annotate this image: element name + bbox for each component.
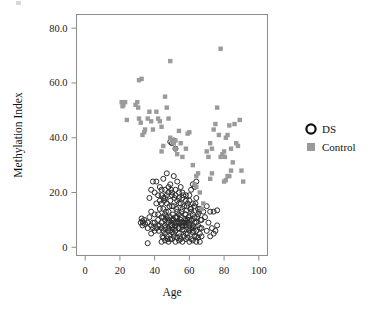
data-point-control [159, 149, 163, 153]
data-point-control [165, 105, 169, 109]
data-point-control [208, 177, 212, 181]
data-point-control [137, 116, 141, 120]
x-tick-label: 60 [184, 265, 195, 276]
data-point-control [175, 152, 179, 156]
data-point-control [184, 146, 188, 150]
data-point-control [161, 144, 165, 148]
data-point-control [208, 141, 212, 145]
data-point-control [125, 118, 129, 122]
data-point-control [191, 163, 195, 167]
data-point-control [196, 171, 200, 175]
data-point-control [232, 122, 236, 126]
data-point-control [163, 94, 167, 98]
data-point-control [241, 179, 245, 183]
y-tick-label: 20.0 [49, 187, 67, 198]
data-point-control [178, 141, 182, 145]
filled-square-icon [307, 143, 315, 151]
data-point-control [199, 207, 203, 211]
data-point-control [158, 119, 162, 123]
data-point-control [173, 138, 177, 142]
data-point-control [168, 59, 172, 63]
data-point-control [143, 127, 147, 131]
data-point-control [159, 125, 163, 129]
data-point-control [166, 116, 170, 120]
data-point-control [177, 129, 181, 133]
data-point-control [180, 155, 184, 159]
data-point-control [139, 77, 143, 81]
data-point-control [201, 201, 205, 205]
stray-artifact-mark [16, 1, 21, 5]
data-point-control [215, 105, 219, 109]
data-point-control [224, 178, 228, 182]
data-point-control [218, 47, 222, 51]
x-tick-label: 20 [115, 265, 126, 276]
data-point-control [151, 127, 155, 131]
data-point-control [139, 120, 143, 124]
x-tick-label: 0 [83, 265, 88, 276]
data-point-control [225, 133, 229, 137]
y-tick-label: 40.0 [49, 132, 67, 143]
scatter-plot-figure: 020406080100 020.040.060.080.0 Age Methy… [0, 0, 379, 312]
x-axis-title: Age [162, 286, 181, 299]
data-point-control [206, 155, 210, 159]
y-tick-label: 0 [62, 242, 67, 253]
y-axis-title: Methylation Index [12, 92, 25, 178]
data-point-control [205, 149, 209, 153]
data-point-control [211, 127, 215, 131]
data-point-control [187, 130, 191, 134]
data-point-control [154, 110, 158, 114]
x-tick-label: 40 [149, 265, 160, 276]
data-point-control [231, 160, 235, 164]
data-point-control [123, 100, 127, 104]
data-point-control [229, 146, 233, 150]
data-point-control [147, 110, 151, 114]
data-point-control [227, 174, 231, 178]
data-point-control [210, 171, 214, 175]
chart-canvas: 020406080100 020.040.060.080.0 Age Methy… [0, 0, 379, 312]
y-tick-label: 80.0 [49, 23, 67, 34]
x-tick-label: 100 [251, 265, 267, 276]
legend-label-ds: DS [322, 123, 336, 135]
x-tick-label: 80 [219, 265, 230, 276]
data-point-control [223, 155, 227, 159]
legend-label-control: Control [322, 141, 356, 153]
data-point-control [173, 146, 177, 150]
data-point-control [239, 168, 243, 172]
data-point-control [194, 185, 198, 189]
data-point-control [213, 122, 217, 126]
data-point-control [135, 100, 139, 104]
data-point-control [149, 119, 153, 123]
y-tick-label: 60.0 [49, 77, 67, 88]
data-point-control [227, 123, 231, 127]
data-point-control [236, 144, 240, 148]
data-point-control [198, 190, 202, 194]
data-point-control [217, 133, 221, 137]
data-point-control [136, 105, 140, 109]
data-point-control [210, 146, 214, 150]
data-point-control [222, 149, 226, 153]
data-point-control [238, 118, 242, 122]
data-point-control [229, 168, 233, 172]
